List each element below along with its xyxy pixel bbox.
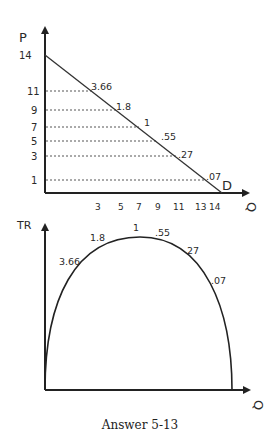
x-tick-14: 14 <box>209 202 221 212</box>
y-tick-11: 11 <box>27 86 40 97</box>
tr-label-055: .55 <box>155 227 170 238</box>
y-tick-3: 3 <box>31 151 37 162</box>
tr-label-1-8: 1.8 <box>90 232 105 243</box>
tr-label-3-66: 3.66 <box>59 256 80 267</box>
label-layer: P 14 11 9 7 5 3 1 3 5 7 9 11 13 14 Q 3.6… <box>0 0 280 445</box>
elasticity-3-66: 3.66 <box>91 81 112 92</box>
elasticity-1: 1 <box>144 117 150 128</box>
figure-caption: Answer 5-13 <box>0 418 280 432</box>
y-tick-9: 9 <box>31 105 37 116</box>
elasticity-007: .07 <box>206 171 221 182</box>
x-tick-9: 9 <box>155 202 161 212</box>
y-tick-1: 1 <box>31 175 37 186</box>
y-tick-7: 7 <box>31 122 37 133</box>
elasticity-1-8: 1.8 <box>116 101 131 112</box>
tr-label-007: .07 <box>211 275 226 286</box>
tr-label-27: 27 <box>187 245 199 256</box>
x-tick-7: 7 <box>136 202 142 212</box>
x-tick-5: 5 <box>118 202 124 212</box>
q-axis-label: Q <box>244 202 259 212</box>
demand-label: D <box>222 178 232 193</box>
p-axis-label: P <box>19 30 27 45</box>
y-tick-5: 5 <box>31 136 37 147</box>
x-tick-13: 13 <box>195 202 206 212</box>
x-tick-3: 3 <box>95 202 101 212</box>
q-axis-bottom-label: Q <box>251 400 266 410</box>
y-tick-14: 14 <box>19 50 32 61</box>
elasticity-055: .55 <box>161 131 176 142</box>
tr-label-1: 1 <box>133 222 139 233</box>
x-tick-11: 11 <box>173 202 184 212</box>
tr-axis-label: TR <box>16 219 32 232</box>
elasticity-027: .27 <box>178 149 193 160</box>
